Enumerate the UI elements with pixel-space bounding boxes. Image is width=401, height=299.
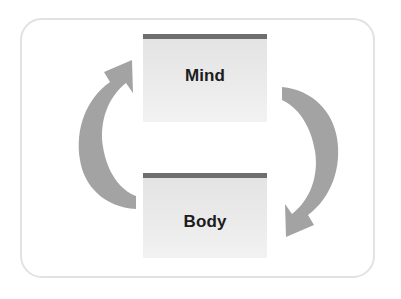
node-mind-accent-bar xyxy=(143,34,267,39)
node-body[interactable]: Body xyxy=(143,173,267,258)
node-body-label: Body xyxy=(184,213,227,230)
node-mind[interactable]: Mind xyxy=(143,34,267,122)
mind-body-cycle-diagram: Mind Body xyxy=(0,0,401,299)
body-to-mind-arrow xyxy=(79,60,136,228)
mind-to-body-arrow xyxy=(282,68,338,237)
node-mind-label: Mind xyxy=(185,67,225,84)
node-body-accent-bar xyxy=(143,173,267,178)
